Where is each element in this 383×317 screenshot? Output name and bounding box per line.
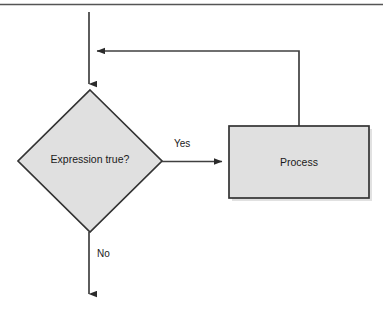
yes-edge-label: Yes (174, 139, 190, 149)
decision-node-label: Expression true? (18, 154, 162, 165)
no-edge-label: No (97, 249, 110, 259)
flowchart-diagram: Expression true? Process Yes No (0, 0, 383, 317)
loop-back-arrow (97, 51, 299, 126)
process-node-label: Process (229, 157, 369, 168)
